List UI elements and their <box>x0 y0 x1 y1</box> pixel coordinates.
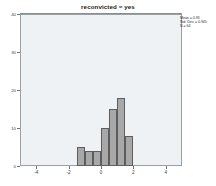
x-axis-tick <box>36 166 37 169</box>
histogram-bar <box>101 128 109 166</box>
x-axis-tick-label: -2 <box>62 170 76 175</box>
bars-layer <box>20 14 182 166</box>
x-axis-tick <box>166 166 167 169</box>
x-axis-tick-label: 0 <box>94 170 108 175</box>
x-axis-tick <box>69 166 70 169</box>
x-axis-tick <box>133 166 134 169</box>
stat-n: N = 64 <box>180 24 216 28</box>
y-axis-tick <box>17 14 20 15</box>
histogram-bar <box>117 98 125 166</box>
y-axis-tick <box>17 52 20 53</box>
statistics-annotation: Mean = 0.93 Std. Dev. = 0.945 N = 64 <box>180 16 216 29</box>
histogram-bar <box>109 109 117 166</box>
y-axis-tick <box>17 128 20 129</box>
y-axis-tick-label: 0 <box>2 164 16 169</box>
y-axis-tick-label: 20 <box>2 88 16 93</box>
y-axis-tick <box>17 90 20 91</box>
histogram-bar <box>125 136 133 166</box>
x-axis-tick-label: -4 <box>29 170 43 175</box>
y-axis-tick-label: 10 <box>2 126 16 131</box>
histogram-bar <box>85 151 93 166</box>
y-axis-tick-label: 40 <box>2 12 16 17</box>
x-axis-tick-label: 2 <box>126 170 140 175</box>
x-axis-tick <box>101 166 102 169</box>
histogram-bar <box>93 151 101 166</box>
y-axis-tick <box>17 166 20 167</box>
x-axis-tick-label: 4 <box>159 170 173 175</box>
histogram-chart: reconvicted = yes 403020100 -4-2024 Mean… <box>0 0 216 186</box>
histogram-bar <box>77 147 85 166</box>
chart-title: reconvicted = yes <box>0 3 216 10</box>
y-axis-tick-label: 30 <box>2 50 16 55</box>
